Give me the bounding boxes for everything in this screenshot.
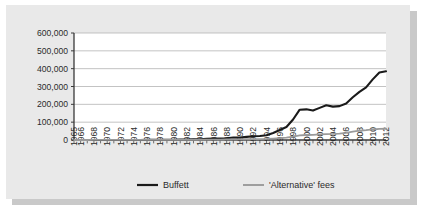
y-tick-label: 0 [63, 135, 68, 145]
y-axis-labels: 0100,000200,000300,000400,000500,000600,… [37, 28, 68, 145]
y-tick-label: 200,000 [37, 99, 68, 109]
y-tick-label: 500,000 [37, 46, 68, 56]
x-axis-labels: 1965196619681970197219741976197819801982… [69, 127, 391, 146]
x-tick-label: 1972 [116, 127, 126, 146]
chart-legend: Buffett'Alternative' fees [137, 180, 335, 190]
x-tick-label: 1978 [155, 127, 165, 146]
x-tick-label: 1986 [209, 127, 219, 146]
x-tick-label: 1984 [195, 127, 205, 146]
x-tick-label: 2006 [341, 127, 351, 146]
x-tick-label: 1970 [102, 127, 112, 146]
line-chart: 0100,000200,000300,000400,000500,000600,… [0, 0, 425, 212]
x-tick-label: 1982 [182, 127, 192, 146]
x-tick-label: 1976 [142, 127, 152, 146]
x-tick-label: 1988 [222, 127, 232, 146]
y-tick-label: 400,000 [37, 64, 68, 74]
x-tick-label: 1980 [169, 127, 179, 146]
y-tick-label: 100,000 [37, 117, 68, 127]
chart-figure: 0100,000200,000300,000400,000500,000600,… [0, 0, 425, 212]
y-tick-label: 300,000 [37, 82, 68, 92]
legend-label: 'Alternative' fees [269, 180, 335, 190]
x-tick-label: 2004 [328, 127, 338, 146]
plot-area-wrapper: 0100,000200,000300,000400,000500,000600,… [0, 0, 404, 194]
y-tick-label: 600,000 [37, 28, 68, 38]
x-tick-label: 1968 [89, 127, 99, 146]
x-tick-label: 2000 [302, 127, 312, 146]
x-tick-label: 1966 [76, 127, 86, 146]
x-tick-label: 1974 [129, 127, 139, 146]
legend-label: Buffett [163, 180, 189, 190]
x-tick-label: 2002 [315, 127, 325, 146]
